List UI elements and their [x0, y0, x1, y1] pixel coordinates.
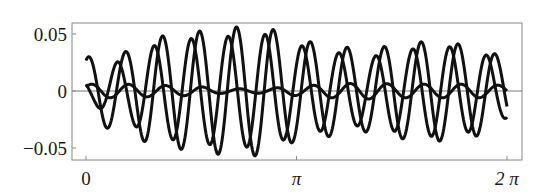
- curves: [86, 27, 507, 156]
- x-tick-label: 0: [81, 168, 91, 189]
- x-tick-label: π: [292, 168, 302, 189]
- y-tick-label: 0: [58, 81, 68, 102]
- y-tick-label: 0.05: [34, 24, 67, 45]
- y-tick-label: −0.05: [23, 138, 67, 159]
- series-curve-a: [86, 27, 507, 156]
- x-tick-label: 2 π: [495, 168, 519, 189]
- line-chart: 0π2 π0.050−0.05: [0, 0, 541, 195]
